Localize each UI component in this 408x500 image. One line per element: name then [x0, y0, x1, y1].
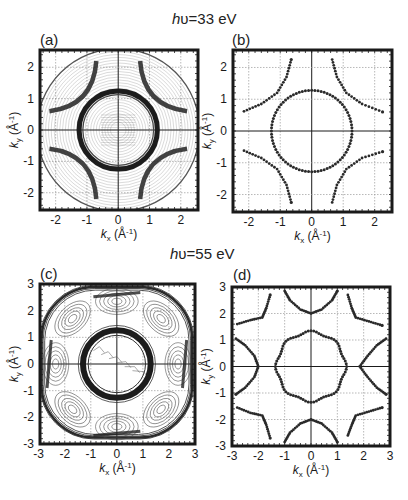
data-point [338, 347, 341, 350]
y-tick-label: 0 [27, 123, 34, 137]
data-point [330, 337, 333, 340]
data-point [347, 145, 350, 148]
y-tick-label: -1 [216, 156, 227, 170]
data-point [268, 97, 271, 100]
data-point [374, 108, 377, 111]
data-point [353, 162, 356, 165]
data-point [327, 336, 330, 339]
data-point [336, 160, 339, 163]
data-point [287, 70, 290, 73]
y-tick-label: 0 [220, 124, 227, 138]
data-point [307, 400, 310, 403]
data-point [307, 89, 310, 92]
data-point [334, 189, 337, 192]
data-point [270, 136, 273, 139]
data-point [270, 133, 273, 136]
data-point [368, 105, 371, 108]
data-point [336, 99, 339, 102]
data-point [273, 166, 276, 169]
y-tick-label: -1 [215, 386, 226, 400]
data-point [312, 330, 315, 333]
data-point [332, 61, 335, 64]
data-point [287, 97, 290, 100]
data-point [343, 153, 346, 156]
data-point [288, 64, 291, 67]
y-axis-label: ky (Å-1) [199, 113, 216, 149]
data-point [332, 338, 335, 341]
data-point [277, 89, 280, 92]
y-tick-label: -2 [215, 413, 226, 427]
data-point [286, 73, 289, 76]
data-point [350, 95, 353, 98]
data-point [289, 164, 292, 167]
x-tick-label: -1 [275, 215, 286, 229]
x-tick-label: 3 [387, 449, 394, 463]
data-point [320, 169, 323, 172]
y-tick-label: -3 [215, 439, 226, 453]
x-tick-label: -1 [85, 447, 96, 461]
data-point [298, 168, 301, 171]
data-point [263, 101, 266, 104]
data-point [280, 156, 283, 159]
data-point [349, 142, 352, 145]
data-point [343, 89, 346, 92]
data-point [310, 329, 313, 332]
data-point [280, 103, 283, 106]
y-axis-label: ky (Å-1) [6, 112, 23, 148]
data-point [345, 168, 348, 171]
data-point [327, 394, 330, 397]
data-point [336, 76, 339, 79]
data-point [312, 400, 315, 403]
data-point [346, 111, 349, 114]
panel-c: -3-2-10123-3-2-10123kx (Å-1)ky (Å-1) [6, 277, 199, 477]
data-point [378, 151, 381, 154]
data-point [304, 399, 307, 402]
data-point [294, 335, 297, 338]
data-point [331, 95, 334, 98]
data-point [350, 136, 353, 139]
data-point [270, 126, 273, 129]
data-point [285, 76, 288, 79]
data-point [260, 103, 263, 106]
panel-a: -2-1012-2-1012kx (Å-1)ky (Å-1) [6, 49, 200, 243]
data-point [276, 108, 279, 111]
data-point [272, 117, 275, 120]
x-tick-label: -1 [82, 213, 93, 227]
data-point [270, 95, 273, 98]
data-point [292, 336, 295, 339]
data-point [310, 170, 313, 173]
data-point [345, 368, 348, 371]
data-point [349, 120, 352, 123]
data-point [254, 154, 257, 157]
data-point [292, 394, 295, 397]
data-point [277, 170, 280, 173]
data-point [276, 91, 279, 94]
data-point [358, 101, 361, 104]
x-axis-label: kx (Å-1) [99, 460, 135, 477]
y-tick-label: 0 [219, 360, 226, 374]
y-axis-label: ky (Å-1) [198, 348, 215, 384]
data-point [243, 110, 246, 113]
y-tick-label: 2 [27, 304, 34, 318]
y-tick-label: -3 [23, 437, 34, 451]
data-point [254, 105, 257, 108]
data-point [343, 170, 346, 173]
data-point [350, 123, 353, 126]
data-point [329, 93, 332, 96]
data-point [313, 170, 316, 173]
data-point [331, 201, 334, 204]
data-point [368, 154, 371, 157]
data-point [263, 158, 266, 161]
data-point [323, 168, 326, 171]
data-point [329, 166, 332, 169]
data-point [364, 156, 367, 159]
data-point [339, 350, 342, 353]
data-point [287, 67, 290, 70]
data-point [271, 139, 274, 142]
y-tick-label: 2 [219, 307, 226, 321]
data-point [251, 106, 254, 109]
data-point [283, 342, 286, 345]
data-point [332, 198, 335, 201]
data-point [289, 337, 292, 340]
data-point [339, 81, 342, 84]
